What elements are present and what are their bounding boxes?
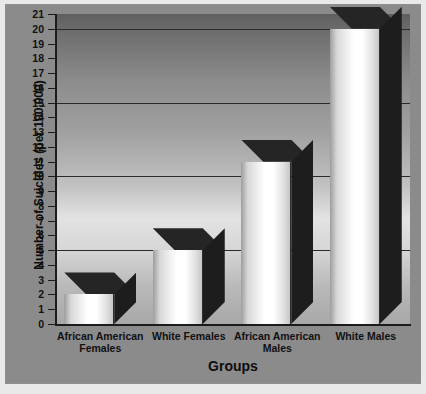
bar (241, 140, 313, 324)
y-tick-label: 21 (32, 9, 44, 19)
y-tick-mark (48, 206, 56, 207)
y-tick-mark (48, 250, 56, 251)
y-tick-mark (48, 103, 56, 104)
y-tick-mark (48, 265, 56, 266)
x-category-label-line2: Females (56, 342, 145, 354)
bar-front-face (153, 250, 203, 324)
bar (153, 228, 225, 324)
y-tick-mark (48, 324, 56, 325)
x-category-label-line1: White Males (322, 330, 411, 342)
y-tick-mark (48, 29, 56, 30)
bar-front-face (64, 294, 114, 324)
y-axis-line (55, 14, 57, 325)
x-category-label: White Females (145, 330, 234, 342)
y-tick-mark (48, 73, 56, 74)
bar-front-face (241, 162, 291, 324)
y-tick-mark (48, 280, 56, 281)
x-category-label: African AmericanMales (233, 330, 322, 354)
x-axis-title: Groups (56, 358, 410, 374)
y-tick-mark (48, 88, 56, 89)
y-tick-mark (48, 44, 56, 45)
y-tick-mark (48, 132, 56, 133)
bar (330, 7, 402, 324)
y-tick-mark (48, 191, 56, 192)
y-tick-mark (48, 147, 56, 148)
x-category-label-line1: White Females (145, 330, 234, 342)
x-category-label-line1: African American (233, 330, 322, 342)
plot-area (56, 14, 410, 324)
y-axis-title: Number of Suicides (per 100,000) (32, 25, 46, 325)
x-category-label: African AmericanFemales (56, 330, 145, 354)
x-category-label: White Males (322, 330, 411, 342)
y-tick-mark (48, 58, 56, 59)
y-tick-mark (48, 176, 56, 177)
bar-side-face (380, 7, 402, 324)
y-tick-mark (48, 117, 56, 118)
bar-side-face (291, 140, 313, 324)
bar (64, 272, 136, 324)
y-tick-mark (48, 294, 56, 295)
chart-figure: 0123456789101112131415161718192021Africa… (0, 0, 426, 394)
x-category-label-line2: Males (233, 342, 322, 354)
y-tick-mark (48, 309, 56, 310)
bar-front-face (330, 29, 380, 324)
x-category-label-line1: African American (56, 330, 145, 342)
y-tick-mark (48, 221, 56, 222)
x-axis-line (55, 324, 411, 326)
y-tick-mark (48, 235, 56, 236)
y-tick-mark (48, 14, 56, 15)
y-tick-mark (48, 162, 56, 163)
